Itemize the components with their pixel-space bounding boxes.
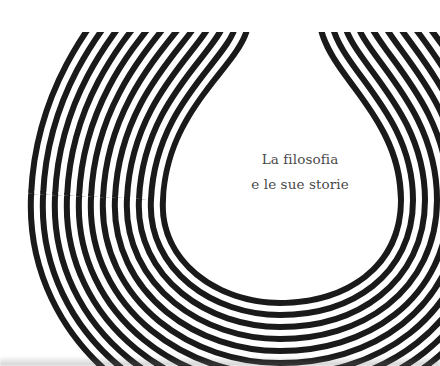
title-line-1: La filosofia [220, 147, 380, 172]
title-line-2: e le sue storie [220, 172, 380, 197]
top-margin [0, 0, 440, 32]
bottom-edge-shadow [0, 356, 440, 366]
book-cover: La filosofia e le sue storie [0, 0, 440, 366]
book-title: La filosofia e le sue storie [220, 147, 380, 197]
